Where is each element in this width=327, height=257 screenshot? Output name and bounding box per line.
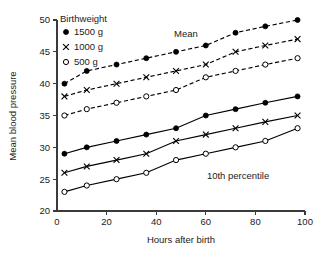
data-point-marker <box>263 138 268 143</box>
data-point-marker <box>295 56 300 61</box>
data-point-marker <box>144 132 149 137</box>
chart-annotation-label: Mean <box>174 28 198 39</box>
y-tick-label: 50 <box>39 14 50 25</box>
series-line <box>64 96 297 153</box>
legend-item: 1500 g <box>64 26 104 37</box>
data-point-marker <box>263 24 268 29</box>
data-point-marker <box>114 177 119 182</box>
chart-annotation-label: 10th percentile <box>207 170 269 181</box>
x-tick-label: 60 <box>201 216 212 227</box>
x-tick-label: 40 <box>151 216 162 227</box>
series-line <box>64 128 297 192</box>
legend-item-label: 1500 g <box>74 26 103 37</box>
y-tick-label: 35 <box>39 110 50 121</box>
data-point-marker <box>174 49 179 54</box>
x-tick-label: 0 <box>54 216 59 227</box>
chart-legend: Birthweight 1500 g1000 g500 g <box>60 13 107 67</box>
x-tick-label: 100 <box>297 216 313 227</box>
data-point-marker <box>203 75 208 80</box>
legend-marker-icon <box>63 44 69 50</box>
data-point-marker <box>263 100 268 105</box>
legend-marker-icon <box>64 30 69 35</box>
data-point-marker <box>62 189 67 194</box>
data-point-marker <box>233 107 238 112</box>
data-series <box>62 113 301 176</box>
data-point-marker <box>203 43 208 48</box>
y-tick-label: 20 <box>39 205 50 216</box>
x-tick-label: 80 <box>250 216 261 227</box>
x-axis-title: Hours after birth <box>147 234 215 245</box>
data-point-marker <box>114 100 119 105</box>
data-point-marker <box>62 81 67 86</box>
data-point-marker <box>295 18 300 23</box>
data-point-marker <box>263 62 268 67</box>
legend-item: 1000 g <box>63 41 103 52</box>
chart-figure: 20253035404550 020406080100 Mean10th per… <box>0 0 327 257</box>
data-point-marker <box>203 151 208 156</box>
legend-item-label: 1000 g <box>74 41 103 52</box>
x-axis-ticks: 020406080100 <box>54 211 313 227</box>
data-point-marker <box>233 145 238 150</box>
y-tick-label: 30 <box>39 142 50 153</box>
x-tick-label: 20 <box>101 216 112 227</box>
legend-items: 1500 g1000 g500 g <box>63 26 103 67</box>
legend-title: Birthweight <box>60 13 107 24</box>
data-point-marker <box>233 30 238 35</box>
y-tick-label: 45 <box>39 46 50 57</box>
data-point-marker <box>174 126 179 131</box>
data-point-marker <box>84 183 89 188</box>
data-point-marker <box>144 170 149 175</box>
data-point-marker <box>62 113 67 118</box>
data-point-marker <box>62 151 67 156</box>
data-point-marker <box>114 62 119 67</box>
y-tick-label: 40 <box>39 78 50 89</box>
legend-item-label: 500 g <box>74 56 98 67</box>
y-axis-title: Mean blood pressure <box>7 71 18 160</box>
legend-item: 500 g <box>63 56 97 67</box>
y-axis-ticks: 20253035404550 <box>39 14 57 216</box>
legend-marker-icon <box>63 59 68 64</box>
data-point-marker <box>173 87 178 92</box>
data-point-marker <box>144 56 149 61</box>
data-point-marker <box>144 94 149 99</box>
data-point-marker <box>233 68 238 73</box>
data-point-marker <box>203 113 208 118</box>
data-point-marker <box>295 126 300 131</box>
data-point-marker <box>84 68 89 73</box>
data-series <box>62 94 300 156</box>
data-point-marker <box>114 138 119 143</box>
data-point-marker <box>295 94 300 99</box>
data-point-marker <box>173 157 178 162</box>
data-series <box>62 126 300 195</box>
y-tick-label: 25 <box>39 174 50 185</box>
data-point-marker <box>84 145 89 150</box>
line-chart-canvas: 20253035404550 020406080100 Mean10th per… <box>0 0 327 257</box>
data-point-marker <box>84 107 89 112</box>
